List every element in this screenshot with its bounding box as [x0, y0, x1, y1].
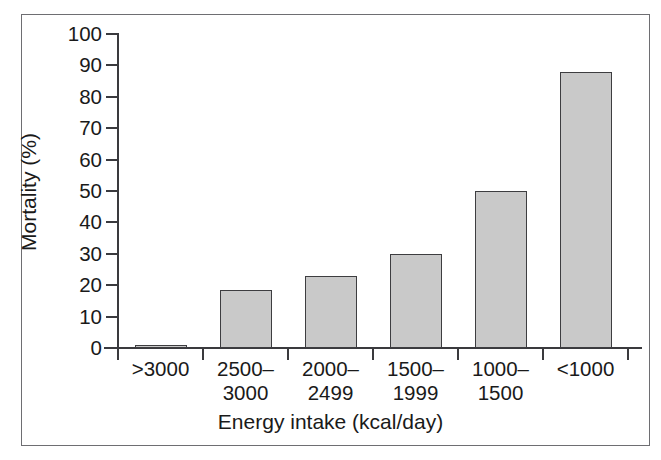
bar [560, 72, 612, 348]
x-axis-category-label-line: 1500– [373, 357, 458, 381]
x-axis-category-label: 2500–3000 [203, 357, 288, 405]
y-axis-tick-label: 60 [38, 150, 102, 171]
x-axis-category-label-line: 2000– [288, 357, 373, 381]
bar [475, 191, 527, 348]
x-axis-category-label-line: 2500– [203, 357, 288, 381]
y-axis-tick [106, 190, 118, 192]
x-axis-category-label-line: 3000 [203, 381, 288, 405]
y-axis-tick [106, 253, 118, 255]
y-axis-tick-label: 100 [38, 24, 102, 45]
y-axis-tick [106, 284, 118, 286]
y-axis-tick-label: 30 [38, 244, 102, 265]
x-axis-category-label: <1000 [543, 357, 628, 381]
y-axis-tick [106, 33, 118, 35]
y-axis-tick-label: 50 [38, 181, 102, 202]
y-axis-tick-label: 20 [38, 275, 102, 296]
figure-canvas: 0102030405060708090100 >30002500–3000200… [0, 0, 661, 460]
x-axis-category-label: 1500–1999 [373, 357, 458, 405]
y-axis-tick [106, 159, 118, 161]
y-axis-tick-label: 10 [38, 307, 102, 328]
y-axis-tick [106, 221, 118, 223]
x-axis-category-label: >3000 [118, 357, 203, 381]
x-axis-category-label-line: 1999 [373, 381, 458, 405]
bar [305, 276, 357, 348]
y-axis-tick-label: 80 [38, 87, 102, 108]
y-axis-tick [106, 127, 118, 129]
x-axis-category-label-line: <1000 [543, 357, 628, 381]
y-axis-title: Mortality (%) [17, 102, 41, 282]
y-axis-tick-label: 70 [38, 118, 102, 139]
plot-area [118, 34, 628, 348]
bar [220, 290, 272, 348]
x-axis-category-label-line: 2499 [288, 381, 373, 405]
y-axis-tick-labels: 0102030405060708090100 [34, 0, 102, 460]
x-axis-title: Energy intake (kcal/day) [0, 410, 661, 434]
x-axis-category-label: 2000–2499 [288, 357, 373, 405]
x-axis-category-label-line: 1500 [458, 381, 543, 405]
y-axis-tick [106, 96, 118, 98]
y-axis-tick [106, 316, 118, 318]
x-axis-category-label: 1000–1500 [458, 357, 543, 405]
bar [135, 345, 187, 348]
y-axis-tick [106, 64, 118, 66]
y-axis-tick-label: 40 [38, 212, 102, 233]
y-axis-tick-label: 90 [38, 55, 102, 76]
bar [390, 254, 442, 348]
x-axis-category-label-line: >3000 [118, 357, 203, 381]
x-axis-category-label-line: 1000– [458, 357, 543, 381]
y-axis-tick-label: 0 [38, 338, 102, 359]
